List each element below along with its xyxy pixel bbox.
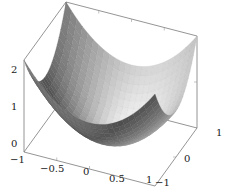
x-tick-label-05: 0.5 (109, 173, 125, 184)
x-tick-label-neg05: −0.5 (40, 163, 64, 174)
z-tick-label-2: 2 (11, 64, 17, 75)
surface-plot: 0 1 2 −1 −0.5 0 0.5 1 −1 0 1 (0, 0, 234, 196)
surface-patch (31, 74, 38, 86)
z-tick-label-1: 1 (11, 101, 17, 112)
x-tick-label-0: 0 (83, 166, 89, 177)
y-tick-label-0: 0 (184, 153, 190, 164)
y-tick-label-1: 1 (216, 127, 222, 138)
y-tick-label-neg1: −1 (155, 177, 170, 188)
x-tick-label-neg1: −1 (10, 154, 25, 165)
z-tick-label-0: 0 (11, 138, 17, 149)
x-tick-label-1: 1 (146, 174, 152, 185)
surface-patch (24, 60, 31, 74)
